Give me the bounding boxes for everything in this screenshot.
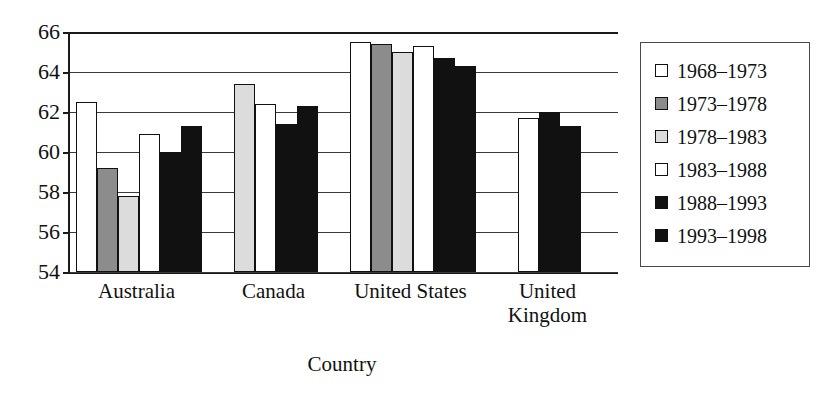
bar	[76, 102, 97, 272]
bar	[434, 58, 455, 272]
legend-swatch-icon	[655, 196, 668, 209]
legend-swatch-icon	[655, 229, 668, 242]
y-axis-tick	[63, 112, 70, 114]
x-axis-category-labels: AustraliaCanadaUnited StatesUnited Kingd…	[68, 280, 616, 340]
y-axis-tick-labels: 54565860626466	[8, 0, 60, 401]
legend-item[interactable]: 1993–1998	[655, 219, 809, 252]
legend-item[interactable]: 1983–1988	[655, 153, 809, 186]
plot-area	[68, 32, 618, 274]
bar	[255, 104, 276, 272]
legend-item-label: 1978–1983	[677, 127, 767, 147]
y-axis-tick	[63, 272, 70, 274]
legend-item-label: 1988–1993	[677, 193, 767, 213]
x-axis-title: Country	[68, 352, 616, 377]
bar	[297, 106, 318, 272]
y-axis-tick-label: 58	[16, 181, 60, 203]
legend-item[interactable]: 1973–1978	[655, 87, 809, 120]
bar	[392, 52, 413, 272]
y-axis-tick	[63, 192, 70, 194]
bar	[371, 44, 392, 272]
y-axis-tick-label: 66	[16, 21, 60, 43]
x-axis-category-label: Canada	[199, 280, 349, 304]
bar	[560, 126, 581, 272]
bar	[118, 196, 139, 272]
legend-item-label: 1973–1978	[677, 94, 767, 114]
y-axis-tick-label: 60	[16, 141, 60, 163]
legend-item-label: 1983–1988	[677, 160, 767, 180]
legend-swatch-icon	[655, 163, 668, 176]
legend-item-label: 1993–1998	[677, 226, 767, 246]
legend-swatch-icon	[655, 97, 668, 110]
legend: 1968–19731973–19781978–19831983–19881988…	[640, 42, 810, 267]
bar	[413, 46, 434, 272]
bar	[455, 66, 476, 272]
y-axis-tick	[63, 232, 70, 234]
legend-item-label: 1968–1973	[677, 61, 767, 81]
y-axis-tick-label: 56	[16, 221, 60, 243]
bar	[350, 42, 371, 272]
bar	[160, 152, 181, 272]
bar	[139, 134, 160, 272]
legend-swatch-icon	[655, 64, 668, 77]
x-axis-category-label: United States	[336, 280, 486, 304]
y-axis-tick-label: 64	[16, 61, 60, 83]
bars-layer	[70, 32, 618, 272]
y-axis-tick	[63, 152, 70, 154]
x-axis-category-label: United Kingdom	[473, 280, 623, 327]
bar	[181, 126, 202, 272]
legend-swatch-icon	[655, 130, 668, 143]
gridline	[70, 272, 618, 273]
legend-item[interactable]: 1988–1993	[655, 186, 809, 219]
y-axis-tick-label: 62	[16, 101, 60, 123]
bar	[539, 112, 560, 272]
bar	[518, 118, 539, 272]
bar-chart: 54565860626466 AustraliaCanadaUnited Sta…	[0, 0, 825, 401]
y-axis-tick	[63, 32, 70, 34]
bar	[97, 168, 118, 272]
bar	[276, 124, 297, 272]
y-axis-tick	[63, 72, 70, 74]
legend-item[interactable]: 1978–1983	[655, 120, 809, 153]
x-axis-category-label: Australia	[62, 280, 212, 304]
bar	[234, 84, 255, 272]
legend-item[interactable]: 1968–1973	[655, 54, 809, 87]
y-axis-tick-label: 54	[16, 261, 60, 283]
